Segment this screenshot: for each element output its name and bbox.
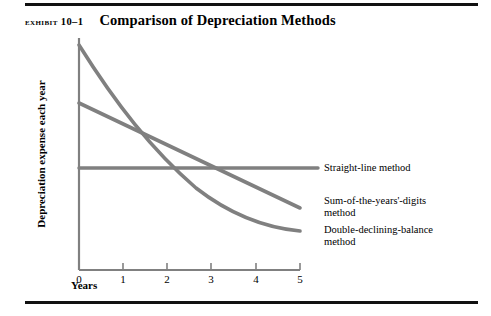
x-tick-label-4: 4 [248,273,264,285]
legend-item-sum-of-years-digits-line2: method [324,207,426,219]
series-line-double-declining-balance [79,45,300,231]
x-tick-label-3: 3 [203,273,219,285]
legend-item-straight-line: Straight-line method [324,162,411,174]
bottom-rule [25,301,478,304]
legend-item-sum-of-years-digits: Sum-of-the-years'-digits method [324,195,426,219]
x-axis-title: Years [71,279,97,291]
legend-item-double-declining-balance-line2: method [324,236,433,248]
series-line-sum-of-years-digits [79,103,300,208]
y-axis-title: Depreciation expense each year [35,69,47,239]
x-tick-label-2: 2 [159,273,175,285]
exhibit-figure: Exhibit 10–1 Comparison of Depreciation … [0,0,491,316]
legend-item-double-declining-balance-line1: Double-declining-balance [324,224,433,236]
legend-item-double-declining-balance: Double-declining-balance method [324,224,433,248]
x-tick-label-1: 1 [115,273,131,285]
depreciation-comparison-chart [0,0,491,316]
x-tick-label-5: 5 [292,273,308,285]
legend-item-sum-of-years-digits-line1: Sum-of-the-years'-digits [324,195,426,207]
